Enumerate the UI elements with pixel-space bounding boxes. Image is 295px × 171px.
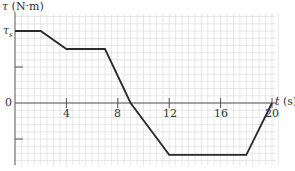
tau-s-label: τs bbox=[3, 24, 13, 39]
grid bbox=[15, 14, 278, 165]
x-tick-12: 12 bbox=[163, 107, 177, 120]
y-axis-label: τ (N·m) bbox=[2, 0, 44, 13]
x-tick-8: 8 bbox=[114, 107, 121, 120]
x-tick-4: 4 bbox=[63, 107, 70, 120]
torque-chart bbox=[0, 0, 295, 171]
x-tick-20: 20 bbox=[265, 107, 279, 120]
x-axis-label: t (s) bbox=[275, 95, 295, 108]
zero-label: 0 bbox=[5, 96, 12, 109]
x-tick-16: 16 bbox=[214, 107, 228, 120]
